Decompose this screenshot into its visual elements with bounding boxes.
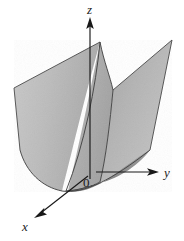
y-axis-label: y: [162, 165, 170, 180]
figure-canvas: z y x 0: [0, 0, 184, 241]
z-axis-label: z: [86, 2, 92, 17]
origin-label: 0: [83, 175, 90, 190]
parabolic-cylinder-figure: z y x 0: [0, 0, 184, 241]
x-axis-label: x: [21, 219, 28, 234]
surface-texture: [14, 40, 172, 191]
